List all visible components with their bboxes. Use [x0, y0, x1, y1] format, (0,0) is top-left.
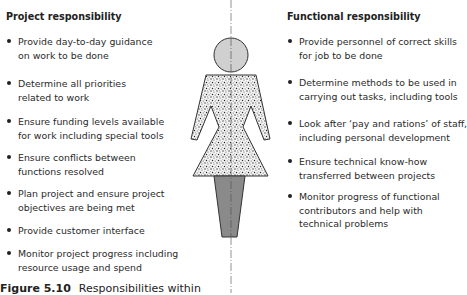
caption-text: Responsibilities within — [79, 282, 201, 295]
list-item: Plan project and ensure project objectiv… — [6, 187, 165, 214]
list-item: Look after ‘pay and rations’ of staff, i… — [287, 117, 467, 144]
list-item: Ensure technical know-how transferred be… — [287, 155, 435, 182]
list-item: Determine methods to be used in carrying… — [287, 76, 458, 103]
project-heading: Project responsibility — [6, 11, 122, 22]
list-item: Ensure funding levels available for work… — [6, 115, 164, 142]
list-item: Determine all priorities related to work — [6, 77, 126, 104]
caption-label: Figure 5.10 — [0, 282, 71, 295]
list-item: Ensure conflicts between functions resol… — [6, 151, 136, 178]
list-item: Provide customer interface — [6, 224, 145, 238]
list-item: Provide personnel of correct skills for … — [287, 35, 457, 62]
list-item: Monitor project progress including resou… — [6, 247, 178, 274]
list-item: Provide day-to-day guidance on work to b… — [6, 35, 152, 62]
list-item: Monitor progress of functional contribut… — [287, 190, 440, 231]
functional-heading: Functional responsibility — [287, 11, 421, 22]
legs — [214, 176, 245, 237]
dress — [191, 75, 270, 176]
figure-caption: Figure 5.10Responsibilities within — [0, 282, 201, 295]
